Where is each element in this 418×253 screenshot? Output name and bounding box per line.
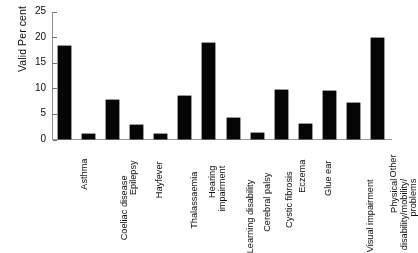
x-axis-label-line: Visual impairment <box>366 179 376 252</box>
x-axis-label-line: Asthma <box>80 159 90 190</box>
x-axis-label: Physicaldisability/mobility/problems <box>390 179 418 250</box>
bar <box>251 133 264 139</box>
bar-slot <box>366 12 390 139</box>
x-axis-label-line: Hearing <box>208 166 218 211</box>
x-axis-label-line: problems <box>409 179 418 250</box>
x-axis-label: Epilepsy <box>130 160 140 195</box>
bar <box>299 124 312 139</box>
y-tick-label: 25 <box>35 5 46 16</box>
x-axis-label-line: Thalassaemia <box>189 172 199 229</box>
figure-caption <box>110 232 310 244</box>
x-axis-label: Hearingimpairment <box>208 166 227 211</box>
x-axis-label-line: Glue ear <box>323 161 333 196</box>
bar <box>347 103 360 139</box>
x-axis-label-line: impairment <box>217 166 227 211</box>
bar <box>106 100 119 139</box>
bar <box>275 90 288 139</box>
bar-slot <box>149 12 173 139</box>
bar <box>130 125 143 139</box>
bar-series <box>52 12 390 139</box>
bar-slot <box>100 12 124 139</box>
x-axis-label: Asthma <box>80 159 90 190</box>
x-axis-label: Eczema <box>298 160 308 193</box>
bar <box>58 46 71 139</box>
bar <box>323 91 336 139</box>
x-axis-label: Thalassaemia <box>189 172 199 229</box>
bar-slot <box>221 12 245 139</box>
y-tick-label: 10 <box>35 82 46 93</box>
y-tick-label: 20 <box>35 31 46 42</box>
bar-slot <box>245 12 269 139</box>
bar <box>154 134 167 139</box>
bar-slot <box>124 12 148 139</box>
x-axis-label-line: Hayfever <box>155 161 165 198</box>
x-axis-label: Other <box>389 154 399 177</box>
bar-slot <box>342 12 366 139</box>
bar <box>82 134 95 139</box>
x-axis-labels: AsthmaCoeliac diseaseEpilepsyHayfeverTha… <box>52 143 390 243</box>
bar-slot <box>76 12 100 139</box>
x-axis-label-line: Cystic fibrosis <box>286 171 296 228</box>
y-tick-label: 5 <box>40 107 46 118</box>
x-axis-label: Visual impairment <box>366 179 376 252</box>
x-axis-line <box>52 139 392 140</box>
bar <box>371 38 384 139</box>
bar <box>202 43 215 139</box>
x-axis-label: Cystic fibrosis <box>286 171 296 228</box>
bar-slot <box>173 12 197 139</box>
bar-slot <box>293 12 317 139</box>
x-axis-label: Glue ear <box>323 161 333 196</box>
x-axis-label-line: Other <box>389 154 399 177</box>
y-axis-title: Valid Per cent <box>16 0 28 99</box>
x-axis-label: Cerebral palsy <box>263 173 273 232</box>
y-tick-label: 0 <box>40 133 46 144</box>
x-axis-label-line: Eczema <box>298 160 308 193</box>
x-axis-label-line: Physical <box>390 179 400 250</box>
bar-slot <box>52 12 76 139</box>
y-tick-mark <box>53 140 57 141</box>
plot-area: 0510152025 <box>52 12 390 140</box>
bar <box>227 118 240 139</box>
y-tick-label: 15 <box>35 56 46 67</box>
bar-slot <box>318 12 342 139</box>
x-axis-label-line: Cerebral palsy <box>263 173 273 232</box>
bar-slot <box>197 12 221 139</box>
x-axis-label-line: Epilepsy <box>130 160 140 195</box>
bar-slot <box>269 12 293 139</box>
x-axis-label: Hayfever <box>155 161 165 198</box>
bar <box>178 96 191 139</box>
